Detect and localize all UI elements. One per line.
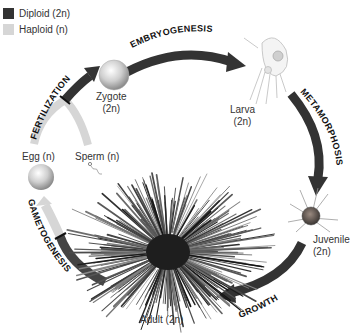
adult-label: Adult (2n)	[140, 314, 183, 326]
haploid-swatch	[3, 24, 14, 35]
larva-ploidy: (2n)	[230, 116, 255, 128]
label-growth: GROWTH	[237, 292, 279, 320]
svg-text:EMBRYOGENESIS: EMBRYOGENESIS	[128, 23, 213, 49]
zygote-ploidy: (2n)	[96, 103, 127, 115]
egg-illustration	[28, 164, 54, 190]
zygote-label: Zygote (2n)	[96, 91, 127, 115]
label-fertilization: FERTILIZATION	[28, 73, 72, 140]
larva-illustration	[244, 38, 288, 104]
sperm-illustration	[88, 162, 102, 174]
larva-label: Larva (2n)	[230, 104, 255, 128]
legend-label-haploid: Haploid (n)	[19, 24, 68, 35]
legend-item-haploid: Haploid (n)	[3, 21, 70, 37]
zygote-illustration	[99, 60, 129, 90]
legend: Diploid (2n) Haploid (n)	[3, 5, 70, 37]
label-embryogenesis: EMBRYOGENESIS	[128, 23, 213, 49]
larva-name: Larva	[230, 104, 255, 116]
juvenile-illustration	[288, 188, 338, 232]
svg-text:GROWTH: GROWTH	[237, 292, 279, 320]
sperm-label: Sperm (n)	[75, 151, 119, 163]
legend-item-diploid: Diploid (2n)	[3, 5, 70, 21]
svg-text:FERTILIZATION: FERTILIZATION	[28, 73, 72, 140]
embryogenesis-arrow	[127, 52, 246, 72]
juvenile-label: Juvenile (2n)	[313, 234, 350, 258]
zygote-name: Zygote	[96, 91, 127, 103]
egg-label: Egg (n)	[22, 151, 55, 163]
juvenile-name: Juvenile	[313, 234, 350, 246]
legend-label-diploid: Diploid (2n)	[19, 8, 70, 19]
juvenile-ploidy: (2n)	[313, 246, 350, 258]
diploid-swatch	[3, 8, 14, 19]
sea-urchin-life-cycle-diagram: EMBRYOGENESIS METAMORPHOSIS GROWTH GAMET…	[0, 0, 359, 333]
